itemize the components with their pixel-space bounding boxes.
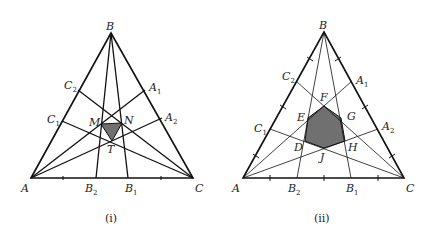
label-D: D (293, 141, 303, 154)
figure-i: B A C C2 C1 A1 A2 B2 B1 M N T (i) (20, 20, 204, 225)
label-A2: A2 (381, 120, 394, 135)
label-A: A (231, 182, 240, 195)
label-B1: B1 (124, 182, 138, 197)
label-B1: B1 (345, 182, 359, 197)
figure-ii: B A C C2 C1 A1 A2 B2 B1 F E G D H J (ii) (231, 19, 415, 225)
label-C1: C1 (254, 122, 267, 137)
caption-i: (i) (105, 212, 117, 225)
label-N: N (123, 114, 134, 127)
cevian-B-B1 (324, 32, 351, 178)
label-A1: A1 (355, 74, 368, 89)
label-A1: A1 (148, 81, 161, 96)
caption-ii: (ii) (314, 212, 330, 225)
label-F: F (319, 91, 328, 104)
label-C: C (195, 182, 204, 195)
label-C: C (406, 182, 415, 195)
cevian-C-C2 (78, 90, 193, 178)
label-E: E (296, 111, 305, 124)
label-J: J (318, 151, 325, 164)
label-B2: B2 (84, 182, 98, 197)
label-T: T (107, 143, 116, 156)
triangle-ABC (31, 33, 193, 178)
label-A: A (20, 182, 29, 195)
label-C2: C2 (64, 79, 77, 94)
diagram-canvas: B A C C2 C1 A1 A2 B2 B1 M N T (i) (0, 0, 432, 236)
label-M: M (88, 116, 101, 129)
label-B2: B2 (287, 182, 301, 197)
label-G: G (347, 110, 356, 123)
label-C1: C1 (47, 113, 60, 128)
label-B: B (318, 19, 327, 32)
label-B: B (105, 20, 114, 33)
label-A2: A2 (164, 111, 177, 126)
label-C2: C2 (282, 70, 295, 85)
label-H: H (347, 141, 358, 154)
